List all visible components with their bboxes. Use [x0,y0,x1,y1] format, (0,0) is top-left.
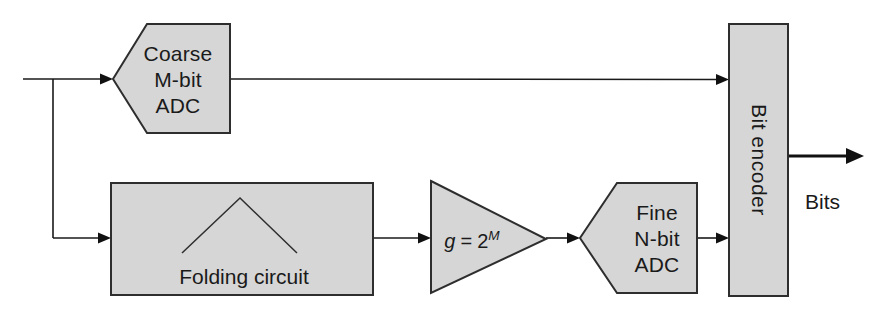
gain-variable: g [444,228,455,254]
bit-encoder-label: Bit encoder [729,24,788,296]
arrowhead-into-fine-adc [567,233,580,244]
coarse-adc-label: Coarse M-bit ADC [123,41,233,119]
coarse-adc-label-line3: ADC [123,93,233,119]
folding-circuit-label: Folding circuit [144,264,344,290]
arrowhead-into-folding-circuit [98,233,111,244]
gain-value: 2M [477,228,499,254]
output-bits-label: Bits [795,189,850,215]
gain-exponent: M [488,228,499,243]
arrowhead-output [846,148,864,164]
gain-base: 2 [477,230,488,252]
arrowhead-into-coarse-adc [100,74,113,85]
fine-adc-label-line1: Fine [597,200,717,226]
coarse-adc-label-line2: M-bit [123,67,233,93]
coarse-adc-to-encoder-wire [230,79,717,80]
folding-adc-block-diagram: Coarse M-bit ADC Folding circuit g = 2M … [0,0,887,313]
coarse-adc-label-line1: Coarse [123,41,233,67]
fine-adc-label-line3: ADC [597,252,717,278]
fine-adc-label: Fine N-bit ADC [597,200,717,278]
gain-amp-label: g = 2M [430,228,514,254]
arrowhead-into-encoder-bottom [716,233,729,244]
fine-adc-label-line2: N-bit [597,226,717,252]
arrowhead-into-encoder-top [716,74,729,85]
gain-equals: = [460,228,472,254]
